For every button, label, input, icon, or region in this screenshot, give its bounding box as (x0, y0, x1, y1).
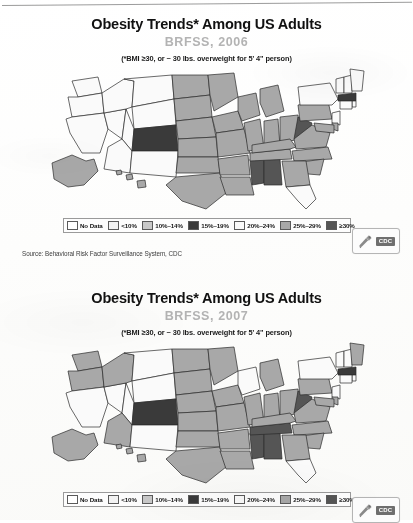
legend-item-no-data-2007: No Data (67, 495, 103, 504)
state-OK (176, 157, 220, 173)
legend-label-15-19-2007: 15%–19% (201, 496, 229, 503)
chart-panel-2006: Obesity Trends* Among US Adults BRFSS, 2… (0, 16, 413, 233)
legend-swatch-15-19-2007 (188, 495, 199, 504)
legend-swatch-under-10 (108, 221, 119, 230)
us-choropleth-map-2007 (42, 341, 372, 486)
state-AK-2007 (52, 429, 98, 461)
state-HI-1-2007 (116, 444, 122, 449)
legend-label-no-data: No Data (80, 222, 103, 229)
legend-label-20-24: 20%–24% (247, 222, 275, 229)
state-MI (260, 85, 284, 117)
legend-label-25-29-2007: 25%–29% (293, 496, 321, 503)
legend-label-no-data-2007: No Data (80, 496, 103, 503)
state-HI-3-2007 (137, 454, 146, 462)
state-CO-2007 (132, 399, 178, 425)
state-MS-2007 (250, 433, 264, 459)
state-KS (178, 137, 218, 157)
state-HI-2-2007 (126, 448, 133, 454)
legend-label-under-10-2007: <10% (121, 496, 137, 503)
state-TX (166, 173, 226, 209)
state-NE-2007 (176, 391, 216, 413)
state-CT (340, 101, 352, 109)
state-HI-3 (137, 180, 146, 188)
state-AR-2007 (218, 429, 250, 449)
legend-label-15-19: 15%–19% (201, 222, 229, 229)
state-RI (352, 101, 356, 107)
chart-subtitle-2007: BRFSS, 2007 (0, 309, 413, 323)
state-MN (208, 73, 238, 111)
state-NM-2007 (130, 425, 178, 451)
state-SD-2007 (174, 369, 212, 395)
legend-2007: No Data <10% 10%–14% 15%–19% 20%–24% 25%… (63, 492, 351, 507)
legend-swatch-under-10-2007 (108, 495, 119, 504)
state-ID-2007 (102, 353, 134, 387)
state-FL (286, 185, 316, 209)
state-LA (220, 177, 254, 195)
chart-footnote: (*BMI ≥30, or ~ 30 lbs. overweight for 5… (0, 54, 413, 63)
legend-swatch-10-14 (142, 221, 153, 230)
legend-2006: No Data <10% 10%–14% 15%–19% 20%–24% 25%… (63, 218, 351, 233)
state-FL-2007 (286, 459, 316, 483)
state-AK (52, 155, 98, 187)
legend-item-15-19-2007: 15%–19% (188, 495, 229, 504)
legend-item-20-24: 20%–24% (234, 221, 275, 230)
state-MA-2007 (338, 367, 356, 375)
cdc-emblem-icon-2007 (357, 503, 374, 518)
legend-swatch-no-data (67, 221, 78, 230)
state-NM (130, 151, 178, 177)
state-ID (102, 79, 134, 113)
us-choropleth-map-2006 (42, 67, 372, 212)
legend-label-25-29: 25%–29% (293, 222, 321, 229)
state-HI-1 (116, 170, 122, 175)
state-AR (218, 155, 250, 175)
state-MS (250, 159, 264, 185)
legend-item-25-29: 25%–29% (280, 221, 321, 230)
chart-panel-2007: Obesity Trends* Among US Adults BRFSS, 2… (0, 290, 413, 507)
source-note-2006: Source: Behavioral Risk Factor Surveilla… (22, 250, 182, 257)
legend-swatch-15-19 (188, 221, 199, 230)
legend-swatch-10-14-2007 (142, 495, 153, 504)
state-VT-2007 (336, 351, 344, 367)
legend-item-30-plus-2007: ≥30% (326, 495, 355, 504)
legend-item-15-19: 15%–19% (188, 221, 229, 230)
state-GA (282, 161, 310, 187)
state-WI-2007 (238, 367, 260, 395)
state-CA-2007 (66, 387, 108, 427)
state-MI-2007 (260, 359, 284, 391)
state-KS-2007 (178, 411, 218, 431)
state-WI (238, 93, 260, 121)
legend-item-25-29-2007: 25%–29% (280, 495, 321, 504)
legend-label-under-10: <10% (121, 222, 137, 229)
legend-swatch-25-29 (280, 221, 291, 230)
legend-swatch-30-plus (326, 221, 337, 230)
legend-swatch-20-24 (234, 221, 245, 230)
map-states-2006 (52, 69, 364, 209)
cdc-wordmark-2007: CDC (376, 506, 395, 515)
legend-label-10-14: 10%–14% (155, 222, 183, 229)
cdc-emblem-icon (357, 234, 374, 249)
state-AL (264, 159, 282, 185)
state-NY-2007 (298, 357, 338, 379)
cdc-logo-badge-2006: CDC (352, 228, 400, 254)
chart-footnote-2007: (*BMI ≥30, or ~ 30 lbs. overweight for 5… (0, 328, 413, 337)
chart-subtitle: BRFSS, 2006 (0, 35, 413, 49)
map-states-2007 (52, 343, 364, 483)
legend-item-10-14: 10%–14% (142, 221, 183, 230)
legend-label-20-24-2007: 20%–24% (247, 496, 275, 503)
state-TX-2007 (166, 447, 226, 483)
state-MO-2007 (216, 403, 250, 431)
state-MN-2007 (208, 347, 238, 385)
state-CO (132, 125, 178, 151)
state-RI-2007 (352, 375, 356, 381)
state-ME-2007 (350, 343, 364, 365)
page-title: Obesity Trends* Among US Adults (0, 16, 413, 32)
legend-item-under-10: <10% (108, 221, 137, 230)
state-SD (174, 95, 212, 121)
state-ME (350, 69, 364, 91)
cdc-wordmark: CDC (376, 237, 395, 246)
legend-item-20-24-2007: 20%–24% (234, 495, 275, 504)
legend-item-no-data: No Data (67, 221, 103, 230)
state-MA (338, 93, 356, 101)
state-VT (336, 77, 344, 93)
page-top-rule (2, 2, 412, 6)
